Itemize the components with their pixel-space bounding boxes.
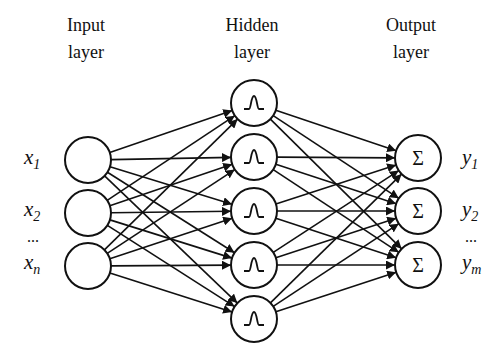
output-label-y1: y1 — [462, 145, 478, 173]
edge-input3-hidden1 — [104, 119, 237, 250]
sum-icon: Σ — [412, 147, 424, 169]
network-diagram: ΣΣΣ — [0, 0, 503, 362]
sum-icon: Σ — [412, 254, 424, 276]
hidden-node-4 — [231, 242, 277, 288]
input-label-x1: x1 — [24, 145, 40, 173]
output-ellipsis: ... — [465, 228, 477, 246]
input-node-2 — [65, 190, 111, 236]
output-label-ym: ym — [462, 250, 481, 278]
edge-input1-hidden1 — [110, 110, 232, 152]
input-ellipsis: ... — [27, 228, 39, 246]
hidden-node-2 — [231, 134, 277, 180]
input-label-xn: xn — [24, 250, 40, 278]
input-label-x2: x2 — [24, 197, 40, 225]
input-node-1 — [65, 137, 111, 183]
edge-input3-hidden4 — [111, 265, 231, 266]
sum-icon: Σ — [412, 200, 424, 222]
hidden-node-1 — [231, 80, 277, 126]
hidden-node-3 — [231, 188, 277, 234]
output-label-y2: y2 — [462, 197, 478, 225]
input-node-3 — [65, 243, 111, 289]
hidden-node-5 — [231, 296, 277, 342]
edge-hidden5-output1 — [270, 174, 401, 303]
edge-hidden1-output1 — [276, 110, 396, 150]
edge-hidden2-output1 — [277, 157, 395, 158]
